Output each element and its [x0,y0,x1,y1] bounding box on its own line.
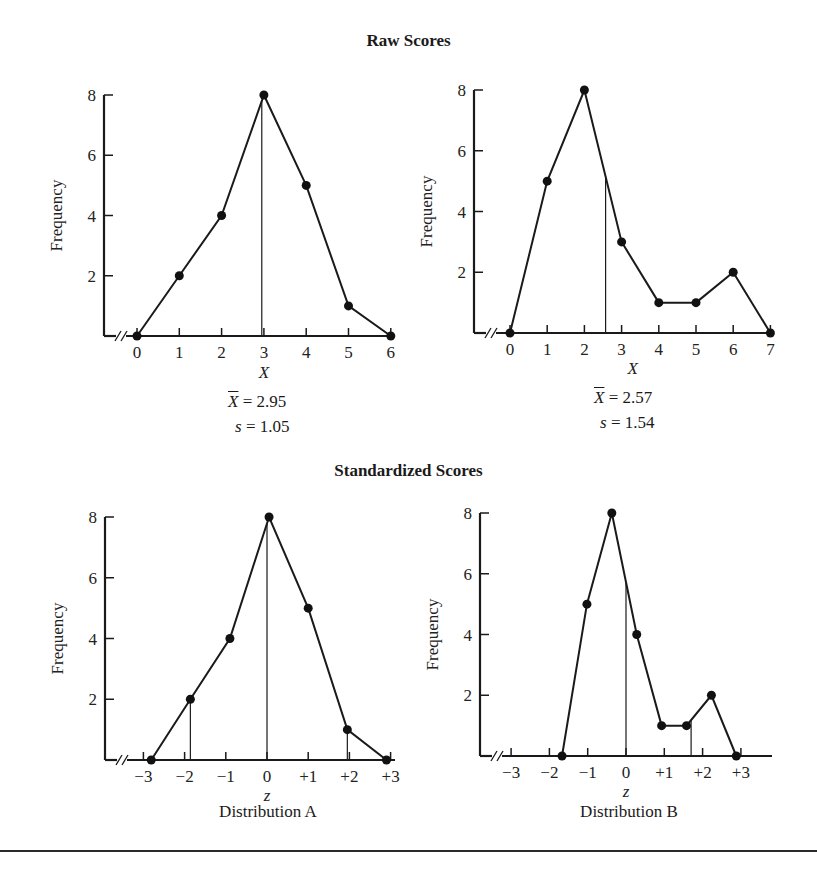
std-B-series-line [562,513,736,756]
raw-B-x-title: X [627,359,639,378]
raw-B-y-tick-label: 6 [458,142,467,161]
raw-a-mean-symbol: X [228,392,238,411]
raw-A-data-point [344,301,353,310]
distribution-b-label: Distribution B [580,802,678,821]
std-B-data-point [632,630,641,639]
raw-A-y-tick-label: 8 [88,86,97,105]
std-B-data-point [732,752,741,761]
raw-B-y-tick-label: 4 [458,203,467,222]
std-A-y-tick-label: 6 [89,569,98,588]
raw-A-series-line [137,95,391,336]
std-A-x-tick-label: 0 [263,767,272,786]
std-B-data-point [707,691,716,700]
raw-b-mean-value: = 2.57 [609,388,653,407]
std-B-data-point [607,509,616,518]
std-A-data-point [343,725,352,734]
raw-a-mean-value: = 2.95 [243,392,287,411]
std-B-x-tick-label: −3 [502,763,520,782]
raw-A-data-point [259,91,268,100]
std-B-data-point [558,752,567,761]
raw-B-data-point [654,298,663,307]
raw-A-x-tick-label: 2 [217,343,226,362]
raw-B-x-tick-label: 1 [543,340,552,359]
raw-A-x-tick-label: 6 [387,343,396,362]
std-B-x-tick-label: −1 [579,763,597,782]
std-A-y-tick-label: 2 [89,690,98,709]
raw-a-sd: s = 1.05 [235,417,289,437]
raw-A-y-tick-label: 6 [88,146,97,165]
std-A-data-point [225,634,234,643]
raw-A-x-tick-label: 0 [133,343,142,362]
std-A-data-point [382,756,391,765]
std-B-y-tick-label: 8 [464,504,473,523]
raw-B-data-point [617,237,626,246]
std-B-x-title: z [622,782,630,801]
std-B-x-tick-label: −2 [540,763,558,782]
raw-B-x-tick-label: 6 [729,340,738,359]
raw-A-y-tick-label: 2 [88,267,97,286]
chart-canvas: 2468Frequency0123456X2468Frequency012345… [0,0,817,871]
raw-A-x-tick-label: 3 [260,343,269,362]
raw-B-y-title: Frequency [417,175,436,247]
raw-A-y-title: Frequency [47,179,66,251]
std-B-y-tick-label: 2 [464,686,473,705]
raw-a-sd-symbol: s [235,417,242,436]
raw-B-data-point [692,298,701,307]
raw-B-y-tick-label: 2 [458,263,467,282]
std-A-y-tick-label: 4 [89,630,98,649]
raw-B-data-point [766,329,775,338]
std-B-x-tick-label: +1 [655,763,673,782]
raw-a-mean: X = 2.95 [228,392,286,412]
std-B-data-point [682,721,691,730]
std-B-y-title: Frequency [423,598,442,670]
raw-B-x-tick-label: 5 [692,340,701,359]
raw-b-sd: s = 1.54 [600,413,654,433]
raw-B-x-tick-label: 7 [766,340,775,359]
std-A-x-tick-label: −3 [134,767,152,786]
raw-b-mean: X = 2.57 [594,388,652,408]
std-A-data-point [265,513,274,522]
std-B-data-point [582,600,591,609]
raw-A-data-point [175,271,184,280]
std-A-y-tick-label: 8 [89,508,98,527]
raw-B-data-point [729,268,738,277]
raw-b-sd-symbol: s [600,413,607,432]
std-A-data-point [304,604,313,613]
std-B-x-tick-label: +2 [694,763,712,782]
raw-A-x-title: X [258,363,270,382]
std-A-x-tick-label: +1 [299,767,317,786]
std-A-data-point [147,756,156,765]
raw-A-data-point [133,332,142,341]
std-B-x-tick-label: +3 [732,763,750,782]
raw-b-mean-symbol: X [594,388,604,407]
raw-B-data-point [580,86,589,95]
raw-b-sd-value: = 1.54 [611,413,655,432]
std-A-x-tick-label: −1 [217,767,235,786]
distribution-b-caption: Distribution B [529,802,729,822]
distribution-a-caption: Distribution A [168,802,368,822]
std-A-series-line [151,517,386,760]
std-B-y-tick-label: 6 [464,565,473,584]
raw-A-x-tick-label: 1 [175,343,184,362]
raw-B-x-tick-label: 2 [580,340,589,359]
raw-B-y-tick-label: 8 [458,81,467,100]
raw-B-data-point [543,177,552,186]
raw-A-x-tick-label: 4 [302,343,311,362]
raw-A-y-tick-label: 4 [88,207,97,226]
std-A-data-point [186,695,195,704]
std-A-x-tick-label: +2 [340,767,358,786]
raw-B-series-line [510,90,770,333]
std-A-x-tick-label: +3 [382,767,400,786]
raw-A-data-point [302,181,311,190]
std-A-x-tick-label: −2 [176,767,194,786]
raw-A-data-point [386,332,395,341]
raw-A-x-tick-label: 5 [344,343,353,362]
std-B-x-tick-label: 0 [622,763,631,782]
std-B-y-tick-label: 4 [464,626,473,645]
raw-B-x-tick-label: 0 [506,340,515,359]
raw-a-sd-value: = 1.05 [246,417,290,436]
raw-B-x-tick-label: 3 [617,340,626,359]
bottom-rule [0,850,817,852]
std-B-data-point [657,721,666,730]
std-A-y-title: Frequency [48,602,67,674]
